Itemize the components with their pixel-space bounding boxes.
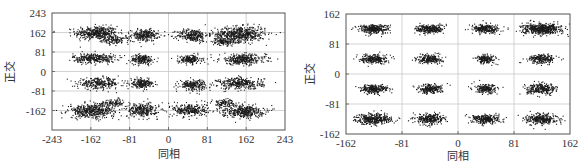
data-point <box>479 56 480 57</box>
data-point <box>152 35 153 36</box>
data-point <box>179 86 180 87</box>
data-point <box>76 37 77 38</box>
data-point <box>227 36 228 37</box>
data-point <box>470 117 471 118</box>
data-point <box>418 88 419 89</box>
data-point <box>547 54 548 55</box>
data-point <box>435 52 436 53</box>
data-point <box>199 79 200 80</box>
data-point <box>360 118 361 119</box>
data-point <box>228 89 229 90</box>
data-point <box>235 36 236 37</box>
data-point <box>180 106 181 107</box>
data-point <box>529 121 530 122</box>
data-point <box>418 26 419 27</box>
data-point <box>141 112 142 113</box>
data-point <box>217 103 218 104</box>
data-point <box>255 59 256 60</box>
data-point <box>245 62 246 63</box>
data-point <box>530 56 531 57</box>
data-point <box>378 31 379 32</box>
data-point <box>188 80 189 81</box>
data-point <box>135 79 136 80</box>
data-point <box>550 33 551 34</box>
data-point <box>365 54 366 55</box>
data-point <box>91 56 92 57</box>
data-point <box>148 34 149 35</box>
data-point <box>232 38 233 39</box>
data-point <box>522 31 523 32</box>
data-point <box>548 53 549 54</box>
data-point <box>439 91 440 92</box>
data-point <box>546 23 547 24</box>
data-point <box>256 110 257 111</box>
data-point <box>145 55 146 56</box>
data-point <box>89 111 90 112</box>
data-point <box>417 120 418 121</box>
data-point <box>378 54 379 55</box>
data-point <box>563 58 564 59</box>
data-point <box>254 108 255 109</box>
data-point <box>111 34 112 35</box>
data-point <box>137 110 138 111</box>
data-point <box>244 114 245 115</box>
data-point <box>148 103 149 104</box>
data-point <box>231 40 232 41</box>
data-point <box>138 63 139 64</box>
data-point <box>250 108 251 109</box>
data-point <box>536 87 537 88</box>
data-point <box>128 88 129 89</box>
data-point <box>222 83 223 84</box>
data-point <box>211 41 212 42</box>
data-point <box>89 38 90 39</box>
data-point <box>148 85 149 86</box>
data-point <box>365 55 366 56</box>
data-point <box>202 106 203 107</box>
data-point <box>358 31 359 32</box>
data-point <box>194 60 195 61</box>
data-point <box>436 31 437 32</box>
data-point <box>419 62 420 63</box>
data-point <box>93 34 94 35</box>
data-point <box>277 59 278 60</box>
data-point <box>380 59 381 60</box>
data-point <box>489 33 490 34</box>
data-point <box>212 82 213 83</box>
data-point <box>223 32 224 33</box>
data-point <box>156 107 157 108</box>
data-point <box>112 118 113 119</box>
data-point <box>89 58 90 59</box>
data-point <box>112 111 113 112</box>
data-point <box>565 28 566 29</box>
data-point <box>78 62 79 63</box>
data-point <box>371 89 372 90</box>
data-point <box>192 84 193 85</box>
constellation-cluster <box>519 53 564 66</box>
data-point <box>87 109 88 110</box>
data-point <box>106 41 107 42</box>
data-point <box>102 106 103 107</box>
data-point <box>432 25 433 26</box>
data-point <box>209 110 210 111</box>
data-point <box>390 55 391 56</box>
data-point <box>116 39 117 40</box>
data-point <box>474 86 475 87</box>
data-point <box>141 33 142 34</box>
data-point <box>104 32 105 33</box>
data-point <box>550 95 551 96</box>
data-point <box>96 31 97 32</box>
data-point <box>388 25 389 26</box>
x-tick-label: 162 <box>238 133 255 145</box>
data-point <box>539 115 540 116</box>
data-point <box>545 28 546 29</box>
data-point <box>537 62 538 63</box>
data-point <box>550 23 551 24</box>
data-point <box>366 117 367 118</box>
data-point <box>221 88 222 89</box>
data-point <box>477 28 478 29</box>
data-point <box>381 122 382 123</box>
data-point <box>438 25 439 26</box>
data-point <box>233 34 234 35</box>
data-point <box>108 82 109 83</box>
data-point <box>242 29 243 30</box>
